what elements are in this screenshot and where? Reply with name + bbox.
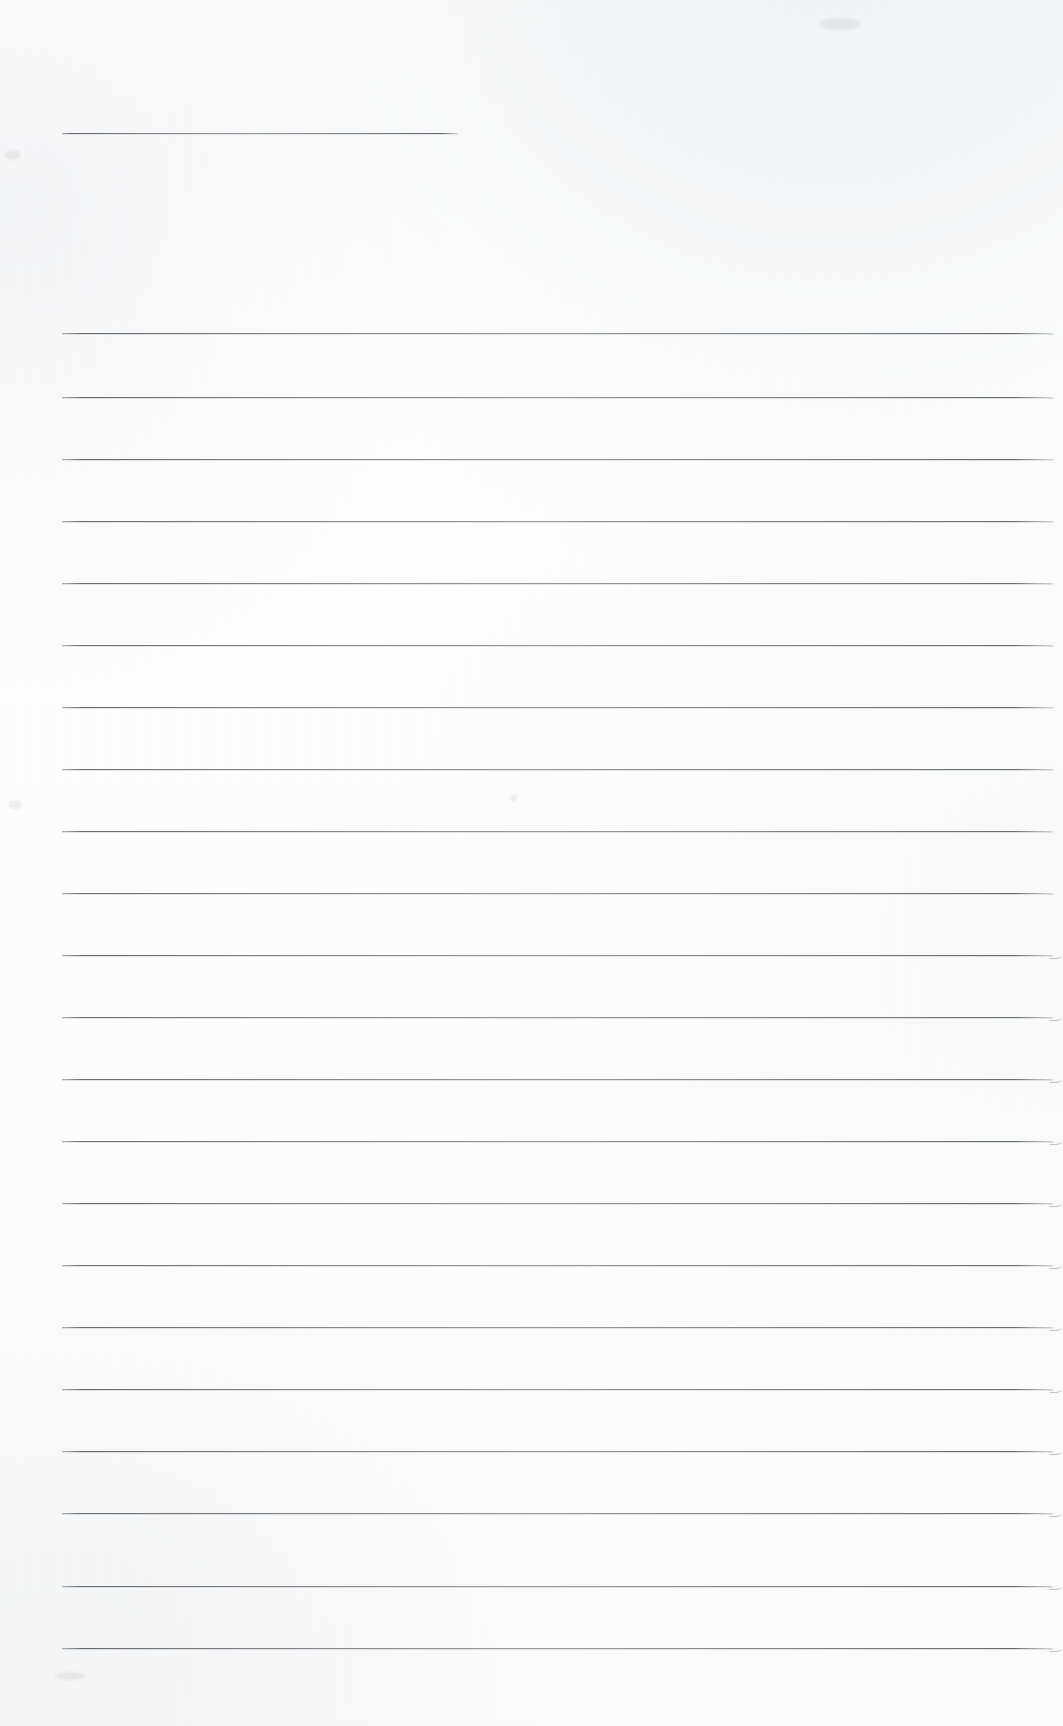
smudge-top-right [820,18,860,30]
writing-area[interactable] [62,300,1053,1680]
scanned-page [0,0,1063,1726]
smudge-top-left [5,150,21,160]
smudge-mid-left [8,800,22,809]
rule-header [62,133,458,134]
